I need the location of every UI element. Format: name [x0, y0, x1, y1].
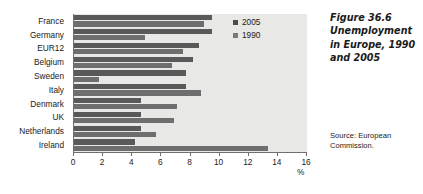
bar-2005	[74, 98, 141, 103]
bar-rows	[74, 14, 307, 152]
bar-1990	[74, 63, 172, 68]
x-tick-label: 10	[214, 156, 223, 168]
bar-2005	[74, 57, 193, 62]
x-tick-label: 0	[71, 156, 76, 168]
figure-title: Figure 36.6 Unemployment in Europe, 1990…	[330, 11, 423, 64]
bar-group	[74, 124, 307, 138]
x-axis-unit-label: %	[297, 167, 304, 177]
bar-group	[74, 14, 307, 28]
legend-item: 2005	[233, 17, 260, 27]
bar-2005	[74, 70, 186, 75]
bar-1990	[74, 90, 201, 95]
bar-1990	[74, 49, 183, 54]
bar-1990	[74, 35, 145, 40]
legend-label: 1990	[242, 30, 260, 40]
x-tick-label: 12	[243, 156, 252, 168]
bar-1990	[74, 77, 99, 82]
bar-2005	[74, 126, 141, 131]
bar-group	[74, 138, 307, 152]
x-tick-label: 6	[158, 156, 163, 168]
legend-swatch-icon	[233, 33, 238, 38]
category-label: Netherlands	[0, 124, 68, 138]
bar-2005	[74, 15, 212, 20]
category-label: Sweden	[0, 69, 68, 83]
bar-group	[74, 97, 307, 111]
category-label: France	[0, 14, 68, 28]
x-tick-label: 8	[187, 156, 192, 168]
bar-2005	[74, 84, 186, 89]
category-label: UK	[0, 111, 68, 125]
legend-swatch-icon	[233, 20, 238, 25]
category-label: Italy	[0, 83, 68, 97]
figure-source: Source: European Commission.	[330, 131, 423, 151]
bar-group	[74, 55, 307, 69]
bar-1990	[74, 146, 268, 151]
x-axis-tick-labels: 0246810121416	[73, 156, 306, 168]
category-axis-labels: FranceGermanyEUR12BelgiumSwedenItalyDenm…	[0, 14, 68, 152]
bar-1990	[74, 21, 204, 26]
bar-2005	[74, 139, 135, 144]
x-tick-label: 4	[129, 156, 134, 168]
category-label: Ireland	[0, 138, 68, 152]
category-label: Germany	[0, 28, 68, 42]
figure-container: FranceGermanyEUR12BelgiumSwedenItalyDenm…	[0, 0, 423, 194]
bar-group	[74, 83, 307, 97]
legend-label: 2005	[242, 17, 260, 27]
bar-1990	[74, 104, 177, 109]
x-tick-label: 2	[100, 156, 105, 168]
legend-item: 1990	[233, 30, 260, 40]
category-label: EUR12	[0, 42, 68, 56]
category-label: Denmark	[0, 97, 68, 111]
bar-group	[74, 69, 307, 83]
bar-group	[74, 28, 307, 42]
bar-2005	[74, 29, 212, 34]
x-tick-label: 14	[272, 156, 281, 168]
bar-2005	[74, 43, 199, 48]
bar-2005	[74, 112, 141, 117]
plot-area	[73, 14, 307, 152]
category-label: Belgium	[0, 55, 68, 69]
bar-chart: FranceGermanyEUR12BelgiumSwedenItalyDenm…	[0, 0, 318, 194]
bar-group	[74, 42, 307, 56]
bar-group	[74, 111, 307, 125]
bar-1990	[74, 118, 174, 123]
bar-1990	[74, 132, 156, 137]
figure-sidebar: Figure 36.6 Unemployment in Europe, 1990…	[330, 0, 423, 194]
chart-legend: 20051990	[233, 17, 260, 40]
